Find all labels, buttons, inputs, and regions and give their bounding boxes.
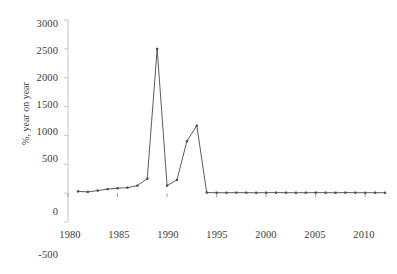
plot-area (0, 0, 397, 274)
y-axis-ticks (64, 20, 68, 222)
data-markers (77, 48, 386, 194)
chart-figure: %, year on year 3000 2500 2000 1500 1000… (0, 0, 397, 274)
data-line-inflation (78, 49, 385, 193)
